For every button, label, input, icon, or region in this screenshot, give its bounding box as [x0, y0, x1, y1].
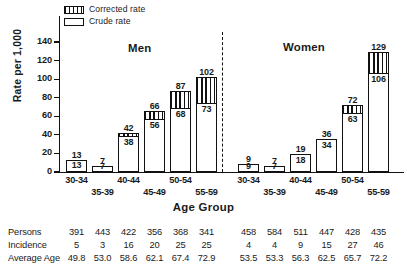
- table-row: Persons391443422356368341458584511447428…: [0, 227, 407, 240]
- bar-men-30-34: 1313: [66, 160, 87, 172]
- x-label-men-35-39: 35-39: [86, 187, 120, 197]
- bar-men-50-54: 8768: [170, 91, 191, 172]
- bar-crude-value-label: 13: [72, 160, 82, 170]
- table-row: Incidence5316202525449152746: [0, 240, 407, 253]
- bar-crude-value-label: 34: [322, 140, 332, 150]
- bar-crude-value-label: 7: [100, 161, 105, 171]
- bar-women-40-44: 1918: [290, 154, 311, 172]
- bar-men-45-49: 6656: [144, 111, 165, 172]
- table-cell: 25: [192, 240, 222, 250]
- bar-crude-segment: [368, 73, 390, 173]
- bar-crude-value-label: 63: [348, 114, 358, 124]
- x-axis-title: Age Group: [0, 201, 407, 213]
- bar-men-35-39: 77: [92, 166, 113, 173]
- bar-corrected-value-label: 102: [199, 67, 213, 77]
- bar-men-40-44: 4238: [118, 133, 139, 172]
- bar-corrected-segment: [197, 78, 216, 105]
- x-label-women-40-44: 40-44: [284, 175, 318, 185]
- table-cell: 72.2: [364, 253, 394, 263]
- x-label-men-30-34: 30-34: [60, 175, 94, 185]
- summary-table: Persons391443422356368341458584511447428…: [0, 227, 407, 266]
- bar-women-45-49: 3634: [316, 139, 337, 172]
- bar-corrected-value-label: 129: [371, 42, 385, 52]
- bar-corrected-segment: [369, 53, 388, 74]
- table-cell: 72.9: [192, 253, 222, 263]
- x-label-women-35-39: 35-39: [258, 187, 292, 197]
- x-label-men-40-44: 40-44: [112, 175, 146, 185]
- bar-women-55-59: 129106: [368, 52, 389, 172]
- bar-crude-value-label: 56: [150, 120, 160, 130]
- x-label-women-50-54: 50-54: [336, 175, 370, 185]
- x-label-women-45-49: 45-49: [310, 187, 344, 197]
- table-row-label: Persons: [8, 227, 41, 237]
- bar-corrected-value-label: 13: [72, 150, 82, 160]
- bar-crude-value-label: 73: [202, 104, 212, 114]
- x-label-men-50-54: 50-54: [164, 175, 198, 185]
- x-label-men-55-59: 55-59: [190, 187, 224, 197]
- bar-crude-value-label: 9: [246, 161, 251, 171]
- table-row: Average Age49.853.058.662.167.472.953.55…: [0, 253, 407, 266]
- bar-corrected-value-label: 87: [176, 81, 186, 91]
- bar-crude-value-label: 38: [124, 137, 134, 147]
- table-row-label: Average Age: [8, 253, 60, 263]
- bar-women-35-39: 77: [264, 166, 285, 173]
- bar-crude-value-label: 106: [371, 74, 385, 84]
- figure: Corrected rate Crude rate Rate per 1,000…: [0, 0, 407, 275]
- table-cell: 46: [364, 240, 394, 250]
- bar-corrected-value-label: 19: [296, 144, 306, 154]
- bar-women-50-54: 7263: [342, 105, 363, 172]
- bar-corrected-value-label: 72: [348, 95, 358, 105]
- table-cell: 435: [364, 227, 394, 237]
- bar-crude-value-label: 68: [176, 109, 186, 119]
- bar-crude-value-label: 18: [296, 155, 306, 165]
- table-cell: 341: [192, 227, 222, 237]
- bar-men-55-59: 10273: [196, 77, 217, 172]
- x-label-women-55-59: 55-59: [362, 187, 396, 197]
- bar-corrected-value-label: 66: [150, 101, 160, 111]
- bar-corrected-value-label: 36: [322, 129, 332, 139]
- bar-crude-value-label: 7: [272, 161, 277, 171]
- x-label-women-30-34: 30-34: [232, 175, 266, 185]
- x-label-men-45-49: 45-49: [138, 187, 172, 197]
- table-row-label: Incidence: [8, 240, 47, 250]
- bar-women-30-34: 99: [238, 164, 259, 172]
- bar-corrected-value-label: 42: [124, 123, 134, 133]
